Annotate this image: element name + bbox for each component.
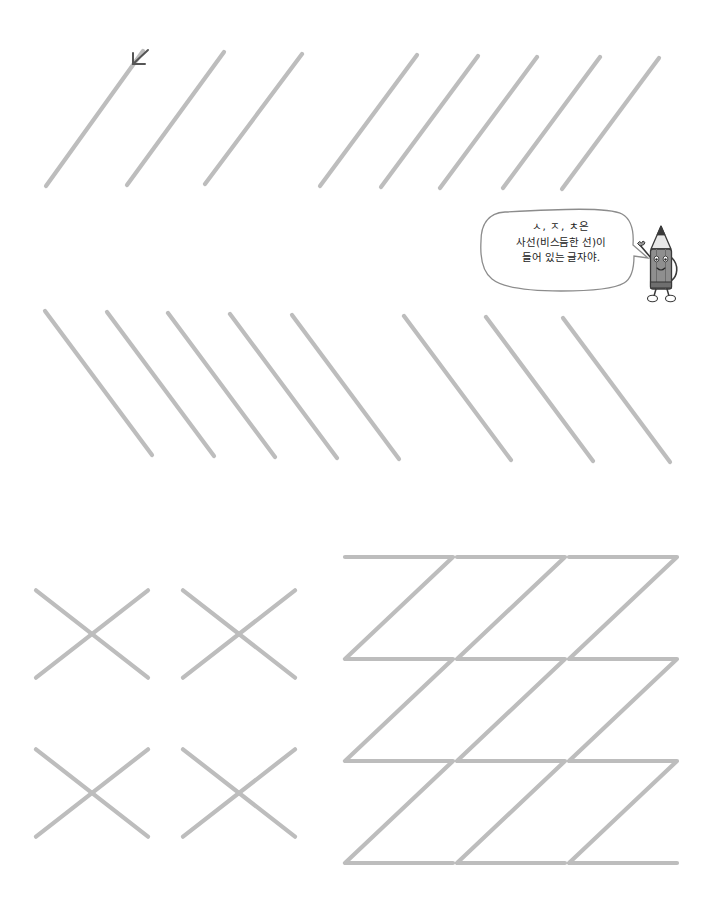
guide-stroke [45,311,152,455]
guide-stroke [440,57,537,188]
guide-stroke [168,313,275,457]
guide-stroke [562,58,659,189]
zigzag-guide-stroke [569,557,677,863]
zigzag-columns[interactable] [345,557,677,863]
zigzag-guide-stroke [457,557,565,863]
guide-stroke [230,314,337,458]
guide-stroke [205,54,302,184]
guide-stroke [107,312,214,456]
row-2-back-diagonals[interactable] [45,311,670,462]
worksheet-page: ㅅ, ㅈ, ㅊ은 사선(비스듬한 선)이 들어 있는 글자야. [0,0,709,918]
guide-stroke [127,52,224,185]
worksheet-canvas [0,0,709,918]
guide-stroke [404,316,511,460]
zigzag-guide-stroke [345,557,453,863]
guide-stroke [381,56,478,187]
guide-stroke [46,51,143,186]
pencil-speech-bubble [481,209,648,291]
guide-stroke [292,315,399,459]
row-1-forward-diagonals[interactable] [46,51,659,189]
pencil-mascot [638,226,677,302]
guide-stroke [320,55,417,186]
x-shapes-grid[interactable] [36,590,295,836]
guide-stroke [503,57,600,188]
